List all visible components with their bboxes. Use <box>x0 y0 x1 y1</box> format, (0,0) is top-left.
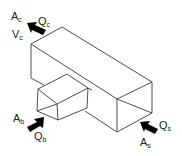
label-flow-common: Qc <box>38 15 51 28</box>
label-flow-branch: Qb <box>34 130 47 143</box>
branch-duct <box>37 74 88 120</box>
duct-tee-diagram: Ac Qc Vc Ab Qb Qs As <box>0 0 182 156</box>
label-area-branch: Ab <box>13 112 24 125</box>
label-area-straight: As <box>140 136 151 149</box>
arrow-straight-icon <box>140 121 158 134</box>
label-flow-straight: Qs <box>159 119 172 132</box>
label-area-common: Ac <box>11 10 22 23</box>
label-velocity-common: Vc <box>12 28 23 41</box>
